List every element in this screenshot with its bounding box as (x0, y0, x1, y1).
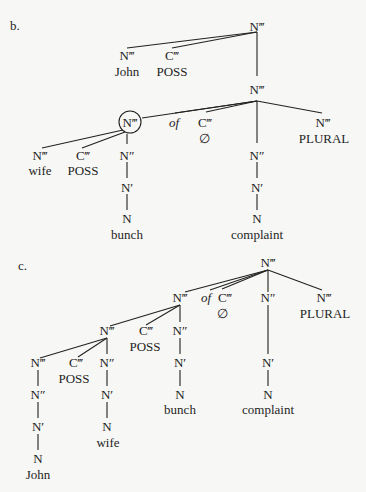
word-empty: ∅ (199, 131, 210, 146)
word-complaint: complaint (242, 402, 294, 417)
node-john-n0: N (33, 451, 43, 466)
node-bunch-n2: N″ (120, 148, 135, 163)
node-poss1-c: C‴ (139, 323, 154, 338)
syntax-tree-diagrams: b. N‴ N‴ John C‴ POSS N‴ N‴ of C‴ ∅ N‴ P… (0, 0, 366, 492)
node-bunch-n1: N′ (121, 180, 133, 195)
node-john-n1: N′ (32, 419, 44, 434)
panel-label-b: b. (10, 18, 20, 33)
node-comp-n2: N″ (261, 290, 276, 305)
node-n-a: N‴ (173, 290, 188, 305)
node-bunch-n2: N″ (173, 323, 188, 338)
word-of: of (201, 290, 214, 305)
node-bunch-n0: N (122, 211, 132, 226)
node-bunch-n0: N (175, 387, 185, 402)
node-root: N‴ (250, 19, 265, 34)
node-plural-np: N‴ (316, 115, 331, 130)
node-root: N‴ (261, 255, 276, 270)
word-of: of (169, 115, 182, 130)
word-wife: wife (96, 435, 119, 450)
word-complaint: complaint (231, 227, 283, 242)
node-circled: N‴ (123, 115, 138, 130)
node-john-n2: N″ (31, 387, 46, 402)
panel-label-c: c. (18, 258, 27, 273)
word-wife: wife (28, 163, 51, 178)
node-wife-np: N‴ (33, 148, 48, 163)
node-comp-n0: N (263, 387, 273, 402)
node-comp-n2: N″ (250, 148, 265, 163)
word-poss1: POSS (129, 339, 160, 354)
node-wife-n1: N′ (101, 387, 113, 402)
node-comp-n0: N (252, 211, 262, 226)
word-empty: ∅ (217, 306, 228, 321)
word-john: John (26, 467, 51, 482)
word-bunch: bunch (164, 402, 196, 417)
node-poss2-c: C‴ (69, 355, 84, 370)
node-comp-n1: N′ (262, 355, 274, 370)
node-bunch-n1: N′ (174, 355, 186, 370)
panel-b: b. N‴ N‴ John C‴ POSS N‴ N‴ of C‴ ∅ N‴ P… (10, 18, 349, 242)
word-poss2: POSS (58, 371, 89, 386)
node-c-empty: C‴ (218, 290, 233, 305)
node-comp-n1: N′ (251, 180, 263, 195)
node-n-b: N‴ (100, 323, 115, 338)
node-c-empty: C‴ (198, 115, 213, 130)
panel-c: c. N‴ N‴ of C‴ ∅ N″ N‴ PLURAL N‴ (18, 255, 350, 482)
word-plural: PLURAL (299, 131, 350, 146)
node-mid: N‴ (250, 82, 265, 97)
node-plural-np: N‴ (317, 290, 332, 305)
node-poss2-c: C‴ (76, 148, 91, 163)
word-poss1: POSS (156, 64, 187, 79)
node-john-np: N‴ (120, 48, 135, 63)
word-john: John (115, 64, 140, 79)
node-wife-n0: N (102, 419, 112, 434)
word-poss2: POSS (67, 163, 98, 178)
node-poss1-c: C‴ (165, 48, 180, 63)
word-plural: PLURAL (300, 306, 351, 321)
word-bunch: bunch (111, 227, 143, 242)
node-wife-n2: N″ (100, 355, 115, 370)
node-john-n3: N‴ (31, 355, 46, 370)
